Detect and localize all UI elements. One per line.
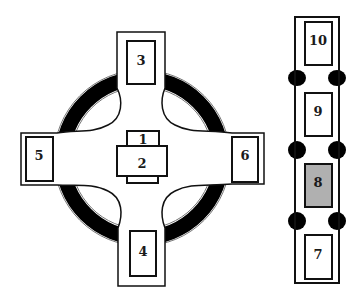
box-5-label: 5 [34, 148, 43, 163]
box-10[interactable]: 10 [305, 22, 332, 65]
box-7[interactable]: 7 [305, 235, 332, 279]
box-2-label: 2 [137, 156, 146, 171]
box-8[interactable]: 8 [305, 164, 332, 207]
box-3[interactable]: 3 [127, 41, 155, 84]
box-6-label: 6 [240, 148, 249, 163]
box-5[interactable]: 5 [26, 137, 53, 181]
box-1-label: 1 [138, 132, 147, 147]
box-3-label: 3 [136, 53, 145, 68]
box-2[interactable]: 2 [117, 146, 167, 176]
box-4[interactable]: 4 [130, 231, 156, 276]
box-10-label: 10 [309, 33, 327, 48]
box-8-label: 8 [313, 175, 322, 190]
box-9-label: 9 [313, 104, 322, 119]
box-1[interactable]: 1 [127, 131, 159, 147]
box-7-label: 7 [313, 247, 322, 262]
box-4-label: 4 [138, 244, 147, 259]
box-6[interactable]: 6 [232, 137, 258, 182]
box-9[interactable]: 9 [305, 93, 332, 136]
diagram-canvas: 3 4 5 6 1 2 [0, 0, 359, 302]
